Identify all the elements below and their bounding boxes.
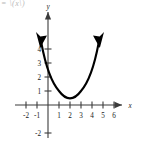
y-tick-label-neg2: -2 [35,130,41,138]
x-tick-label-1: 1 [57,112,61,120]
y-tick-label-4: 4 [37,46,41,54]
x-axis-arrow-icon [115,102,123,108]
y-axis-name-label: y [45,3,50,11]
y-tick-label-3: 3 [37,60,41,68]
x-tick-label-3: 3 [79,112,83,120]
parabola-curve [41,43,98,98]
x-tick-label-neg1: -1 [34,112,40,120]
curve-right-arrow-icon [93,32,104,48]
x-tick-label-6: 6 [112,112,116,120]
y-tick-label-1: 1 [37,88,41,96]
x-axis-name-label: x [127,102,132,110]
x-tick-label-2: 2 [68,112,72,120]
figure-screenshot: = \(x\) -2 -1 [0,0,142,142]
y-axis-arrow-icon [45,12,51,20]
x-tick-label-neg2: -2 [23,112,29,120]
x-tick-label-5: 5 [101,112,105,120]
y-tick-label-2: 2 [37,74,41,82]
graph-canvas: -2 -1 1 2 3 4 5 6 4 3 2 1 -2 x y [0,0,142,142]
x-tick-label-4: 4 [90,112,94,120]
